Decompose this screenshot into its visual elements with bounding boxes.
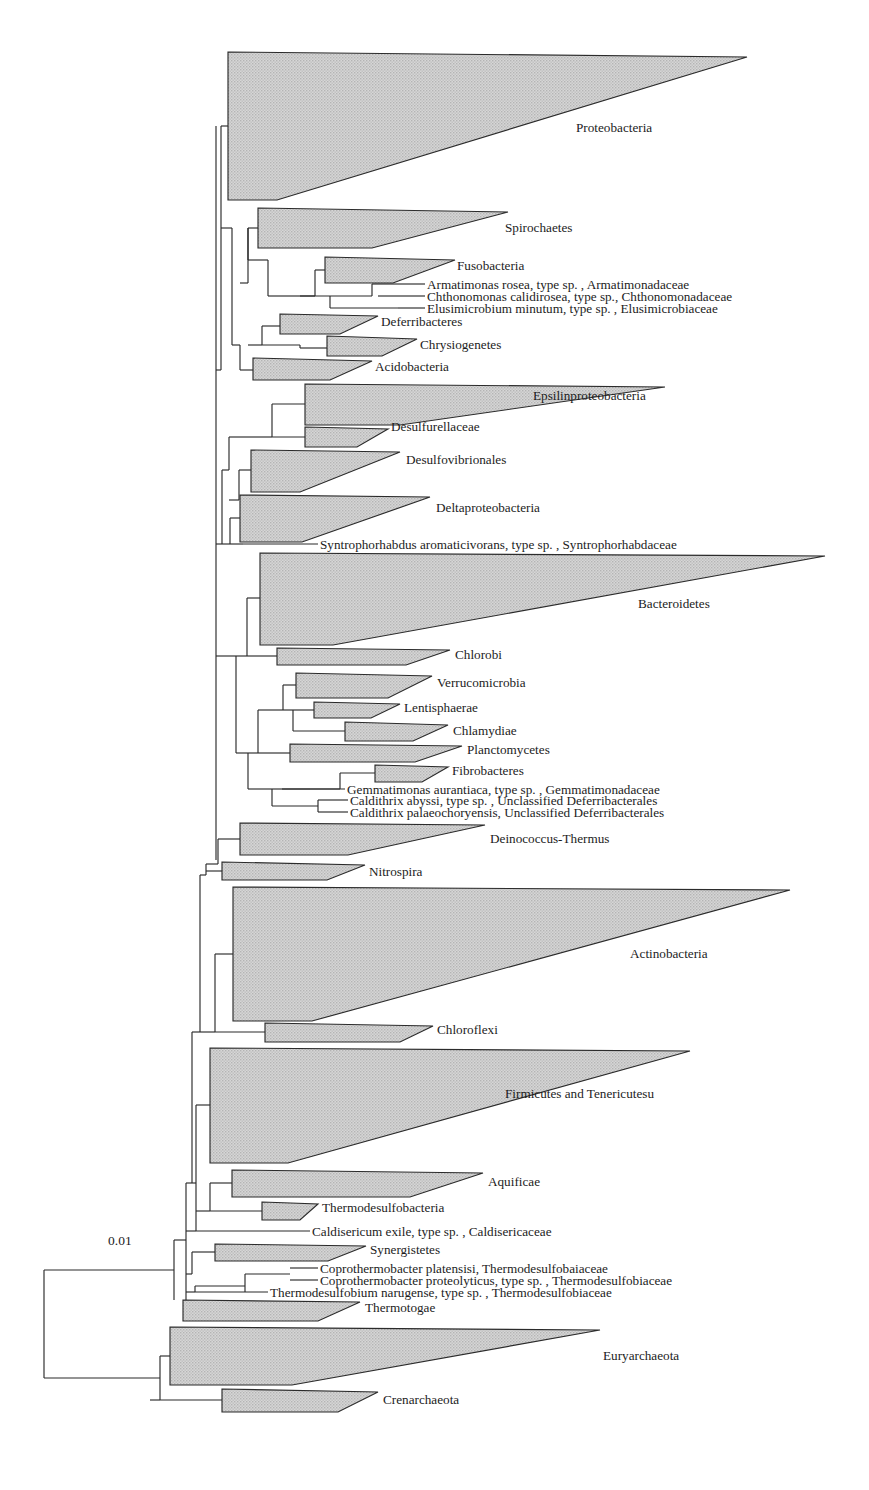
clade-label-nitrospira: Nitrospira — [369, 864, 423, 879]
clade-label-deltaproteobacteria: Deltaproteobacteria — [436, 500, 540, 515]
clade-label-crenarchaeota: Crenarchaeota — [383, 1392, 459, 1407]
clade-label-fusobacteria: Fusobacteria — [457, 258, 525, 273]
clade-label-lentisphaerae: Lentisphaerae — [404, 700, 478, 715]
clade-label-chloroflexi: Chloroflexi — [437, 1022, 498, 1037]
clade-label-firmicutes-tenericutesu: Firmicutes and Tenericutesu — [505, 1086, 654, 1101]
terminal-label-thermodesulfobium-narugense: Thermodesulfobium narugense, type sp. , … — [270, 1285, 612, 1300]
clade-label-aquificae: Aquificae — [488, 1174, 540, 1189]
terminal-label-caldithrix-palaeochoryensis: Caldithrix palaeochoryensis, Unclassifie… — [350, 805, 664, 820]
clade-label-spirochaetes: Spirochaetes — [505, 220, 572, 235]
clade-label-desulfurellaceae: Desulfurellaceae — [391, 419, 480, 434]
terminal-elusimicrobium-minutum[interactable]: Elusimicrobium minutum, type sp. , Elusi… — [398, 301, 718, 316]
phylogenetic-tree-figure: ProteobacteriaSpirochaetesFusobacteriaDe… — [0, 0, 869, 1490]
clade-label-verrucomicrobia: Verrucomicrobia — [437, 675, 526, 690]
terminal-caldithrix-palaeochoryensis[interactable]: Caldithrix palaeochoryensis, Unclassifie… — [330, 805, 664, 820]
clade-label-synergistetes: Synergistetes — [370, 1242, 440, 1257]
clade-label-deinococcus-thermus: Deinococcus-Thermus — [490, 831, 609, 846]
scale-bar-label: 0.01 — [108, 1233, 132, 1248]
clade-label-fibrobacteres: Fibrobacteres — [452, 763, 524, 778]
clade-label-epsilinproteobacteria: Epsilinproteobacteria — [533, 388, 646, 403]
clade-label-desulfovibrionales: Desulfovibrionales — [406, 452, 506, 467]
terminal-label-syntrophorhabdus-aromaticivorans: Syntrophorhabdus aromaticivorans, type s… — [320, 537, 677, 552]
terminal-label-elusimicrobium-minutum: Elusimicrobium minutum, type sp. , Elusi… — [427, 301, 718, 316]
clade-nitrospira[interactable]: Nitrospira — [222, 862, 423, 880]
clade-label-chlorobi: Chlorobi — [455, 647, 502, 662]
clade-label-thermodesulfobacteria: Thermodesulfobacteria — [322, 1200, 444, 1215]
clade-label-planctomycetes: Planctomycetes — [467, 742, 550, 757]
clade-label-thermotogae: Thermotogae — [365, 1300, 435, 1315]
clade-label-proteobacteria: Proteobacteria — [576, 120, 652, 135]
clade-label-deferribacteres: Deferribacteres — [381, 314, 462, 329]
terminal-label-caldisericum-exile: Caldisericum exile, type sp. , Caldiseri… — [312, 1224, 552, 1239]
clade-label-acidobacteria: Acidobacteria — [375, 359, 449, 374]
clade-label-euryarchaeota: Euryarchaeota — [603, 1348, 679, 1363]
clade-label-chlamydiae: Chlamydiae — [453, 723, 517, 738]
clade-label-actinobacteria: Actinobacteria — [630, 946, 708, 961]
clade-label-bacteroidetes: Bacteroidetes — [638, 596, 710, 611]
clade-label-chrysiogenetes: Chrysiogenetes — [420, 337, 501, 352]
